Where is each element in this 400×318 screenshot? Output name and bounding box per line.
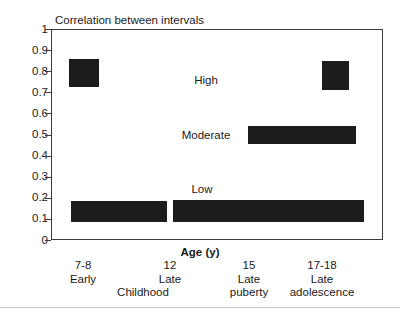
x-category-stage2-15: puberty bbox=[230, 286, 268, 300]
x-category-age-12: 12 bbox=[159, 259, 181, 273]
x-category-7-8: 7-8 Early bbox=[70, 259, 96, 286]
page-bottom-rule bbox=[0, 307, 400, 308]
y-tick-label-0.4: 0.4 bbox=[0, 150, 48, 162]
x-category-stage-15: Late bbox=[230, 273, 268, 287]
bar-high-late-adolescence bbox=[322, 61, 349, 91]
bar-low-late-childhood-to-late-adolescence bbox=[173, 200, 364, 222]
plot-area: High Moderate Low bbox=[51, 29, 383, 240]
x-axis-title: Age (y) bbox=[0, 246, 400, 258]
x-category-17-18: 17-18 Late adolescence bbox=[290, 259, 355, 300]
x-category-age-15: 15 bbox=[230, 259, 268, 273]
chart-title: Correlation between intervals bbox=[55, 14, 204, 27]
x-category-age-7-8: 7-8 bbox=[70, 259, 96, 273]
bar-high-early-childhood bbox=[69, 59, 99, 88]
y-tick-label-0: 0 bbox=[0, 235, 48, 247]
y-tick-label-0.2: 0.2 bbox=[0, 192, 48, 204]
y-tick-label-0.8: 0.8 bbox=[0, 66, 48, 78]
y-tick-label-0.3: 0.3 bbox=[0, 171, 48, 183]
bar-low-early-to-late-childhood bbox=[71, 201, 167, 222]
band-label-low: Low bbox=[191, 183, 212, 195]
x-group-label-childhood: Childhood bbox=[117, 286, 169, 300]
y-tick-label-1: 1 bbox=[0, 24, 48, 36]
x-category-stage-17-18: Late bbox=[290, 273, 355, 287]
y-tick-label-0.7: 0.7 bbox=[0, 87, 48, 99]
x-category-stage-7-8: Early bbox=[70, 273, 96, 287]
y-tick-label-0.1: 0.1 bbox=[0, 213, 48, 225]
chart-figure: Correlation between intervals 1 0.9 0.8 … bbox=[0, 0, 400, 318]
y-tick-label-0.9: 0.9 bbox=[0, 45, 48, 57]
band-label-high: High bbox=[194, 74, 218, 86]
x-category-stage2-17-18: adolescence bbox=[290, 286, 355, 300]
y-tick-label-0.5: 0.5 bbox=[0, 129, 48, 141]
y-tick-label-0.6: 0.6 bbox=[0, 108, 48, 120]
y-tick-mark-0 bbox=[45, 240, 51, 241]
x-category-12: 12 Late bbox=[159, 259, 181, 286]
bar-moderate-late-puberty-to-late-adolescence bbox=[248, 126, 356, 144]
band-label-moderate: Moderate bbox=[182, 129, 231, 141]
x-category-stage-12: Late bbox=[159, 273, 181, 287]
x-category-15: 15 Late puberty bbox=[230, 259, 268, 300]
x-category-age-17-18: 17-18 bbox=[290, 259, 355, 273]
